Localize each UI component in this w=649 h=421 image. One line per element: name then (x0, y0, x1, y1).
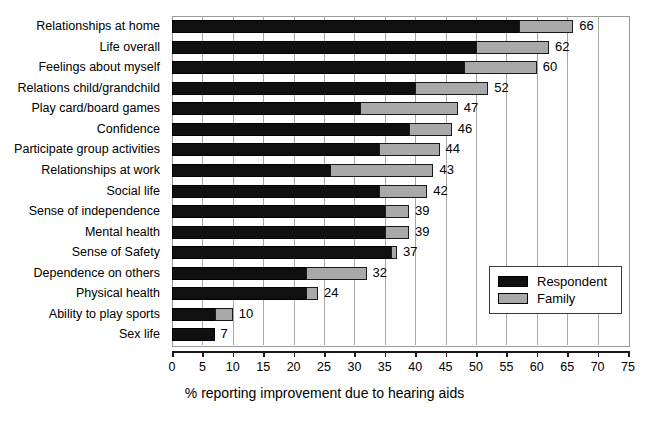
bar-row: 62 (172, 37, 628, 58)
x-axis-tick-label: 55 (491, 359, 521, 375)
category-label: Sex life (119, 324, 160, 345)
bar-value-label: 37 (403, 243, 417, 261)
bar-segment-respondent (172, 246, 391, 259)
stacked-bar (172, 164, 433, 177)
bar-row: 37 (172, 242, 628, 263)
x-axis-tick (233, 351, 235, 357)
bar-segment-respondent (172, 328, 215, 341)
category-axis-labels: Relationships at homeLife overallFeeling… (0, 16, 167, 345)
stacked-bar (172, 246, 397, 259)
x-axis-tick (415, 351, 417, 357)
x-axis-tick-label: 15 (248, 359, 278, 375)
bar-segment-family (379, 185, 428, 198)
stacked-bar (172, 205, 409, 218)
x-axis-tick (446, 351, 448, 357)
category-label: Social life (107, 181, 161, 202)
bar-chart: Relationships at homeLife overallFeeling… (0, 0, 649, 421)
bar-row: 43 (172, 160, 628, 181)
stacked-bar (172, 41, 549, 54)
x-axis-line (172, 351, 628, 353)
category-label: Participate group activities (14, 139, 160, 160)
bar-segment-respondent (172, 267, 306, 280)
bar-value-label: 52 (494, 79, 508, 97)
bar-value-label: 39 (415, 223, 429, 241)
x-axis-tick (202, 351, 204, 357)
bar-segment-family (215, 308, 233, 321)
stacked-bar (172, 82, 488, 95)
x-axis-tick (172, 351, 174, 357)
bar-value-label: 7 (221, 325, 228, 343)
bar-segment-family (476, 41, 549, 54)
bar-segment-respondent (172, 41, 476, 54)
bar-segment-respondent (172, 82, 415, 95)
category-label: Relations child/grandchild (18, 78, 160, 99)
legend-item-family: Family (498, 290, 613, 307)
x-axis-tick-label: 40 (400, 359, 430, 375)
category-label: Mental health (85, 222, 160, 243)
bar-row: 66 (172, 16, 628, 37)
stacked-bar (172, 143, 440, 156)
category-label: Life overall (100, 37, 160, 58)
bar-value-label: 42 (433, 182, 447, 200)
bar-segment-family (464, 61, 537, 74)
bar-segment-respondent (172, 287, 306, 300)
bar-row: 52 (172, 78, 628, 99)
bar-value-label: 39 (415, 202, 429, 220)
bar-segment-respondent (172, 102, 360, 115)
x-axis-tick-label: 20 (279, 359, 309, 375)
x-axis-title: % reporting improvement due to hearing a… (0, 385, 649, 401)
bar-segment-respondent (172, 308, 215, 321)
bar-segment-family (360, 102, 457, 115)
category-label: Ability to play sports (49, 304, 160, 325)
bar-segment-family (306, 287, 318, 300)
x-axis-tick (324, 351, 326, 357)
bar-segment-respondent (172, 143, 379, 156)
bar-row: 39 (172, 201, 628, 222)
stacked-bar (172, 287, 318, 300)
x-axis-tick (537, 351, 539, 357)
legend-label-respondent: Respondent (537, 274, 607, 289)
x-axis-tick (294, 351, 296, 357)
stacked-bar (172, 185, 427, 198)
category-label: Relationships at home (36, 16, 160, 37)
bar-row: 7 (172, 324, 628, 345)
x-axis-tick-label: 75 (613, 359, 643, 375)
bar-value-label: 46 (458, 120, 472, 138)
bar-segment-family (330, 164, 433, 177)
legend-swatch-family (498, 293, 528, 304)
bar-row: 47 (172, 98, 628, 119)
bar-value-label: 43 (439, 161, 453, 179)
bar-segment-respondent (172, 20, 519, 33)
x-axis-tick-label: 65 (552, 359, 582, 375)
bar-segment-family (409, 123, 452, 136)
bar-segment-family (519, 20, 574, 33)
bar-row: 42 (172, 181, 628, 202)
bar-segment-family (379, 143, 440, 156)
x-axis-tick (567, 351, 569, 357)
x-axis-tick-label: 5 (187, 359, 217, 375)
category-label: Play card/board games (31, 98, 160, 119)
x-axis-tick-label: 70 (583, 359, 613, 375)
x-axis-tick (598, 351, 600, 357)
bar-segment-respondent (172, 61, 464, 74)
bar-value-label: 32 (373, 264, 387, 282)
category-label: Dependence on others (34, 263, 160, 284)
x-axis-tick-label: 35 (370, 359, 400, 375)
legend-item-respondent: Respondent (498, 273, 613, 290)
x-axis-tick-label: 25 (309, 359, 339, 375)
stacked-bar (172, 61, 537, 74)
x-axis-tick-label: 10 (218, 359, 248, 375)
bar-value-label: 44 (446, 140, 460, 158)
x-axis-tick-label: 30 (339, 359, 369, 375)
x-axis-tick (628, 351, 630, 357)
bar-segment-respondent (172, 164, 330, 177)
stacked-bar (172, 328, 215, 341)
bar-value-label: 60 (543, 58, 557, 76)
chart-legend: Respondent Family (489, 266, 622, 314)
bar-segment-respondent (172, 123, 409, 136)
x-axis-tick-label: 60 (522, 359, 552, 375)
x-axis-tick (354, 351, 356, 357)
bar-segment-family (385, 226, 409, 239)
category-label: Sense of Safety (72, 242, 160, 263)
bar-value-label: 24 (324, 284, 338, 302)
